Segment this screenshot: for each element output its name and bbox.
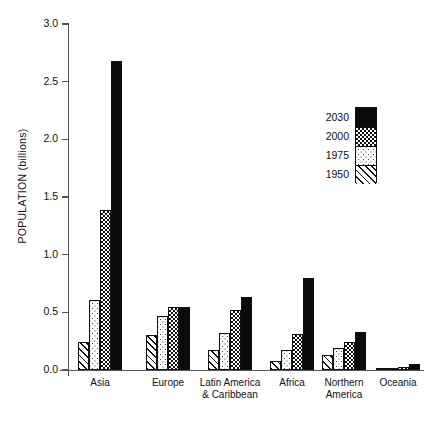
bar-2030-europe — [179, 307, 190, 370]
x-tick-label-line: & Caribbean — [170, 389, 290, 401]
bar-2030-latin-america — [241, 297, 252, 370]
legend-label-2030: 2030 — [303, 111, 349, 123]
x-tick-label-line: Oceania — [338, 377, 428, 389]
legend-swatch-column — [355, 107, 377, 183]
bar-1975-oceania — [387, 368, 398, 370]
legend-swatch-2000 — [356, 127, 376, 146]
bar-1950-oceania — [376, 368, 387, 370]
bar-2000-asia — [100, 210, 111, 370]
bar-2000-northern — [344, 342, 355, 370]
legend-label-1975: 1975 — [303, 149, 349, 161]
bar-1950-africa — [270, 361, 281, 370]
x-tick-label-oceania: Oceania — [338, 377, 428, 389]
bars-layer — [0, 0, 428, 371]
x-tick-label-line: America — [284, 389, 404, 401]
bar-1950-asia — [78, 342, 89, 370]
bar-2030-northern — [355, 332, 366, 370]
population-bar-chart: POPULATION (billions) 0.00.51.01.52.02.5… — [0, 0, 428, 423]
bar-1975-asia — [89, 300, 100, 370]
bar-2000-africa — [292, 334, 303, 370]
bar-2000-oceania — [398, 367, 409, 370]
legend-label-1950: 1950 — [303, 168, 349, 180]
bar-2030-africa — [303, 278, 314, 370]
bar-1950-northern — [322, 355, 333, 370]
bar-1975-africa — [281, 350, 292, 370]
bar-1975-northern — [333, 348, 344, 370]
legend-swatch-1975 — [356, 146, 376, 165]
legend-swatch-1950 — [356, 165, 376, 184]
bar-1950-latin-america — [208, 350, 219, 370]
bar-1950-europe — [146, 335, 157, 370]
legend-swatch-2030 — [356, 108, 376, 127]
bar-1975-latin-america — [219, 333, 230, 370]
bar-2030-asia — [111, 61, 122, 370]
bar-2000-latin-america — [230, 310, 241, 370]
bar-2030-oceania — [409, 364, 420, 370]
bar-2000-europe — [168, 307, 179, 370]
legend-label-2000: 2000 — [303, 130, 349, 142]
bar-1975-europe — [157, 316, 168, 370]
